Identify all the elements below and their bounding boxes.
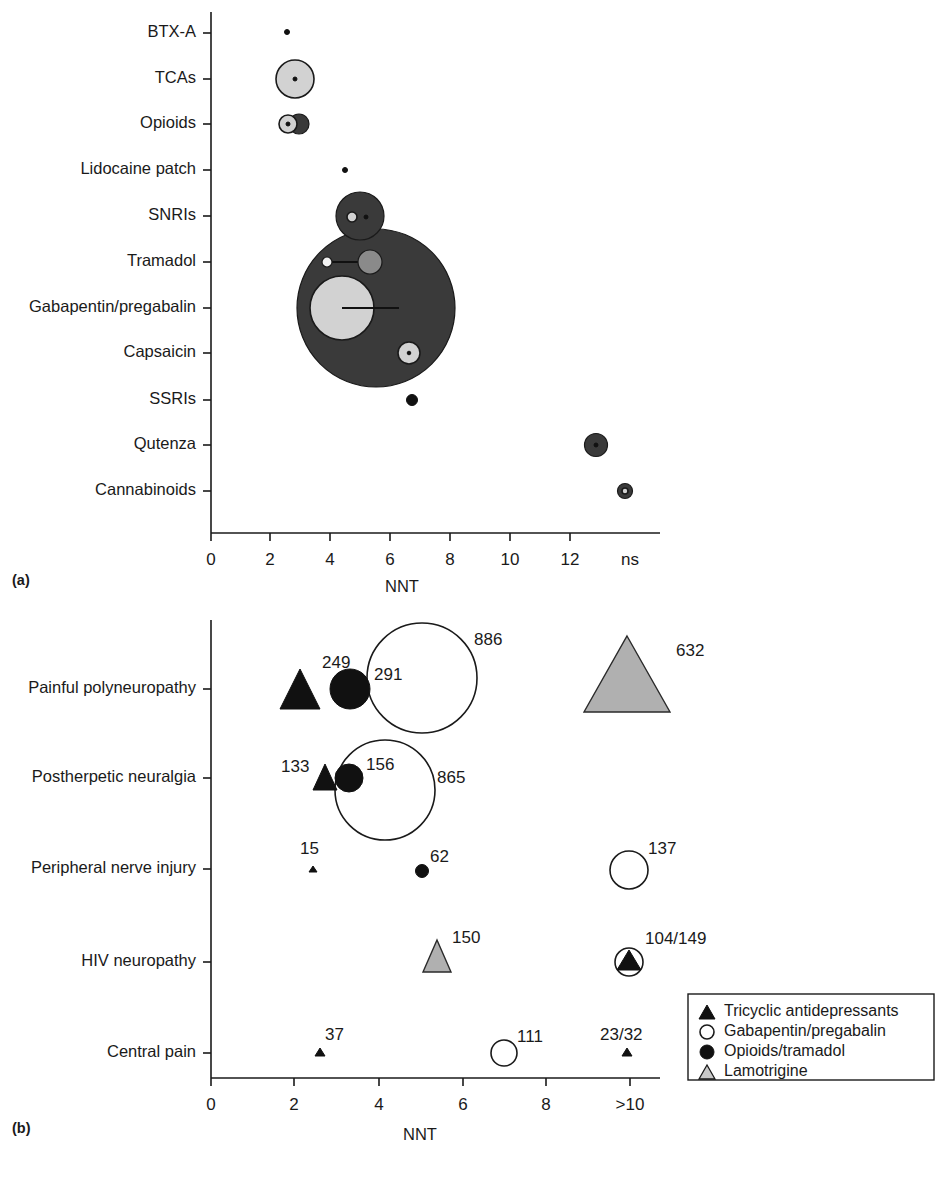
panel-a-y-ticks xyxy=(203,33,211,491)
marker-pni-opioid xyxy=(416,865,429,878)
panel-a-x-axis-title: NNT xyxy=(385,577,419,595)
panel-b-x-ticks xyxy=(211,1078,630,1086)
bubble-lidocaine-patch xyxy=(343,168,348,173)
panel-b-xtick-gt10: >10 xyxy=(616,1095,645,1114)
datalabel-pni-gaba: 137 xyxy=(648,839,676,858)
panel-b-ylabel-central-pain: Central pain xyxy=(107,1042,196,1060)
bubble-opioids-center-dot xyxy=(286,122,290,126)
marker-pni-gabapentin xyxy=(610,851,648,889)
panel-a-xtick-10: 10 xyxy=(501,550,520,569)
bubble-cannabinoids-center xyxy=(622,488,628,494)
datalabel-cp-gaba: 111 xyxy=(517,1027,543,1046)
datalabel-pp-gaba: 886 xyxy=(474,630,502,649)
panel-a-xtick-12: 12 xyxy=(561,550,580,569)
datalabel-pni-tca: 15 xyxy=(300,839,319,858)
panel-a-ylabel-tramadol: Tramadol xyxy=(127,251,196,269)
marker-pni-tca xyxy=(309,866,317,872)
bubble-tcas-center-dot xyxy=(293,77,297,81)
legend-label-gabapentin-pregabalin: Gabapentin/pregabalin xyxy=(724,1022,886,1039)
datalabel-cp-tca2: 23/32 xyxy=(600,1025,643,1044)
panel-b-x-axis-title: NNT xyxy=(403,1125,437,1143)
panel-a-xtick-8: 8 xyxy=(445,550,454,569)
panel-a-ylabel-qutenza: Qutenza xyxy=(134,434,197,452)
datalabel-phn-gaba: 865 xyxy=(437,768,465,787)
panel-b-ylabel-peripheral-nerve-injury: Peripheral nerve injury xyxy=(31,858,197,876)
panel-a-ylabel-cannabinoids: Cannabinoids xyxy=(95,480,196,498)
panel-a-xtick-ns: ns xyxy=(621,550,639,569)
panel-b-y-ticks xyxy=(203,689,211,1053)
marker-phn-tca xyxy=(313,764,337,790)
bubble-capsaicin-center-dot xyxy=(407,351,411,355)
datalabel-cp-tca: 37 xyxy=(325,1025,344,1044)
marker-pp-tca xyxy=(280,669,320,709)
bubble-tramadol-white xyxy=(322,257,332,267)
bubble-btxa xyxy=(285,30,290,35)
bubble-snris-center-dot xyxy=(364,215,368,219)
legend-circle-open-icon xyxy=(700,1025,714,1039)
panel-a-xtick-0: 0 xyxy=(206,550,215,569)
panel-b-ylabel-hiv-neuropathy: HIV neuropathy xyxy=(81,951,196,969)
marker-hiv-lamotrigine xyxy=(423,940,451,972)
bubble-snris-light xyxy=(347,212,357,222)
legend-label-opioids-tramadol: Opioids/tramadol xyxy=(724,1042,845,1059)
panel-a-tag: (a) xyxy=(12,572,30,588)
panel-a-ylabel-snris: SNRIs xyxy=(148,205,196,223)
panel-a-ylabel-opioids: Opioids xyxy=(140,113,196,131)
datalabel-hiv-lamotrigine: 150 xyxy=(452,928,480,947)
panel-b-ylabel-painful-polyneuropathy: Painful polyneuropathy xyxy=(28,678,197,696)
panel-a-ylabel-tcas: TCAs xyxy=(155,68,196,86)
figure-container: BTX-A TCAs Opioids Lidocaine patch SNRIs… xyxy=(0,0,943,1180)
panel-a-x-ticks xyxy=(211,533,570,541)
panel-a-ylabel-lidocaine: Lidocaine patch xyxy=(80,159,196,177)
panel-b-chart: Painful polyneuropathy Postherpetic neur… xyxy=(0,600,943,1180)
panel-b-ylabel-postherpetic-neuralgia: Postherpetic neuralgia xyxy=(32,767,197,785)
panel-a-chart: BTX-A TCAs Opioids Lidocaine patch SNRIs… xyxy=(0,0,943,600)
panel-b-xtick-2: 2 xyxy=(289,1095,298,1114)
marker-cp-gabapentin xyxy=(491,1040,517,1066)
bubble-tramadol-mid xyxy=(358,250,382,274)
bubble-qutenza-center-dot xyxy=(594,443,598,447)
marker-pp-lamotrigine xyxy=(584,636,670,712)
legend-label-lamotrigine: Lamotrigine xyxy=(724,1062,808,1079)
panel-b-tag: (b) xyxy=(12,1120,31,1136)
datalabel-pni-opioid: 62 xyxy=(430,847,449,866)
panel-b-xtick-0: 0 xyxy=(206,1095,215,1114)
panel-a-ylabel-gabapentin: Gabapentin/pregabalin xyxy=(29,297,196,315)
legend-circle-filled-icon xyxy=(700,1045,714,1059)
datalabel-pp-tca: 249 xyxy=(322,653,350,672)
panel-a-ylabel-capsaicin: Capsaicin xyxy=(124,342,196,360)
panel-a-xtick-2: 2 xyxy=(265,550,274,569)
panel-a-xtick-6: 6 xyxy=(385,550,394,569)
bubble-snris-dark xyxy=(336,192,384,240)
panel-a-xtick-4: 4 xyxy=(325,550,334,569)
marker-cp-tca xyxy=(315,1048,325,1056)
panel-a-ylabel-btxa: BTX-A xyxy=(147,22,196,40)
panel-b-xtick-6: 6 xyxy=(458,1095,467,1114)
bubble-ssris xyxy=(407,395,418,406)
marker-phn-opioid xyxy=(335,764,363,792)
legend-label-tricyclic-antidepressants: Tricyclic antidepressants xyxy=(724,1002,899,1019)
panel-b-xtick-8: 8 xyxy=(541,1095,550,1114)
marker-pp-opioid xyxy=(330,669,370,709)
marker-cp-tca2 xyxy=(622,1048,632,1056)
datalabel-pp-opioid: 291 xyxy=(374,665,402,684)
datalabel-pp-lamotrigine: 632 xyxy=(676,641,704,660)
datalabel-hiv-gaba: 104/149 xyxy=(645,929,706,948)
panel-a-ylabel-ssris: SSRIs xyxy=(149,389,196,407)
datalabel-phn-tca: 133 xyxy=(281,757,309,776)
datalabel-phn-opioid: 156 xyxy=(366,755,394,774)
panel-b-xtick-4: 4 xyxy=(374,1095,383,1114)
panel-b-legend: Tricyclic antidepressants Gabapentin/pre… xyxy=(688,994,934,1080)
